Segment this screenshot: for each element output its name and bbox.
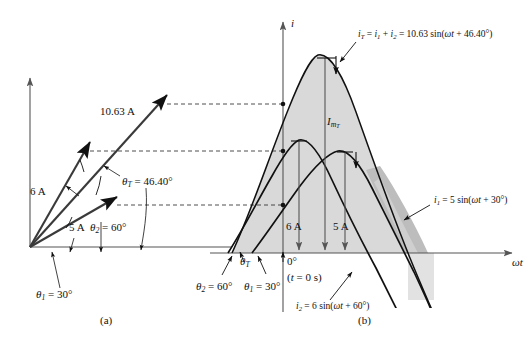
leader-theta1 bbox=[52, 252, 60, 288]
panel-b-angle-leaders bbox=[222, 252, 283, 275]
leader-eq-iT bbox=[340, 42, 356, 62]
panel-b-label-theta1: θ1 = 30° bbox=[244, 281, 280, 294]
equation-iT: iT = i1 + i2 = 10.63 sin(ωt + 46.40°) bbox=[358, 30, 492, 41]
projection-lines bbox=[90, 104, 283, 205]
amplitude-label-6A: 6 A bbox=[286, 221, 302, 232]
theta1-value: = 30° bbox=[45, 288, 72, 300]
panel-b-axis-label-i: i bbox=[291, 18, 294, 29]
equation-i2: i2 = 6 sin(ωt + 60°) bbox=[296, 302, 369, 313]
panel-a-angle-arcs bbox=[66, 160, 101, 228]
theta1-b-value: = 30° bbox=[253, 280, 280, 292]
panel-b-caption: (b) bbox=[358, 315, 371, 326]
leader-theta2-b bbox=[222, 256, 232, 275]
phasor-label-5A: 5 A bbox=[69, 222, 85, 233]
arc-theta2 bbox=[96, 176, 101, 195]
panel-b-axis-label-wt: ωt bbox=[512, 257, 523, 268]
origin-label-t0: (t = 0 s) bbox=[287, 272, 322, 283]
equation-i1: i1 = 5 sin(ωt + 30°) bbox=[434, 196, 507, 207]
leader-thetaT-to-phasor bbox=[104, 166, 120, 176]
leader-theta1-arc bbox=[70, 238, 74, 252]
thetaT-b-subscript: T bbox=[245, 260, 249, 269]
leader-eq-i2 bbox=[330, 272, 352, 300]
panel-b-label-theta2: θ2 = 60° bbox=[196, 281, 232, 294]
panel-a-label-thetaT: θT = 46.40° bbox=[122, 176, 173, 189]
amplitude-label-5A: 5 A bbox=[333, 221, 349, 232]
leader-6A-arc bbox=[66, 186, 79, 196]
phasor-label-6A: 6 A bbox=[30, 186, 46, 197]
shade-under-iT bbox=[232, 55, 408, 253]
panel-b-label-thetaT: θT bbox=[240, 256, 250, 269]
leader-thetaT bbox=[141, 188, 146, 250]
phasor-label-10-63A: 10.63 A bbox=[100, 106, 135, 117]
shade-band-right bbox=[408, 253, 434, 300]
leader-eq-i1 bbox=[404, 205, 430, 220]
leader-theta1-b bbox=[258, 256, 266, 274]
dot-i2-at-t0 bbox=[281, 149, 286, 154]
panel-a-label-theta1: θ1 = 30° bbox=[36, 289, 72, 302]
dot-i1-at-t0 bbox=[281, 203, 286, 208]
thetaT-value: = 46.40° bbox=[132, 175, 173, 187]
panel-a-caption: (a) bbox=[100, 315, 112, 326]
figure-root: 10.63 A 6 A 5 A θT = 46.40° θ2 = 60° θ1 … bbox=[0, 0, 532, 337]
panel-a-label-theta2: θ2 = 60° bbox=[90, 222, 126, 235]
arc-theta2-upper bbox=[80, 160, 84, 172]
theta2-b-value: = 60° bbox=[205, 280, 232, 292]
ImT-sub-T: T bbox=[336, 123, 339, 129]
panel-a-axes bbox=[30, 78, 232, 247]
dot-iT-at-t0 bbox=[281, 102, 286, 107]
theta2-value: = 60° bbox=[99, 221, 126, 233]
peak-label-ImT: ImT bbox=[327, 116, 340, 129]
origin-label-zero-deg: 0° bbox=[287, 256, 297, 267]
